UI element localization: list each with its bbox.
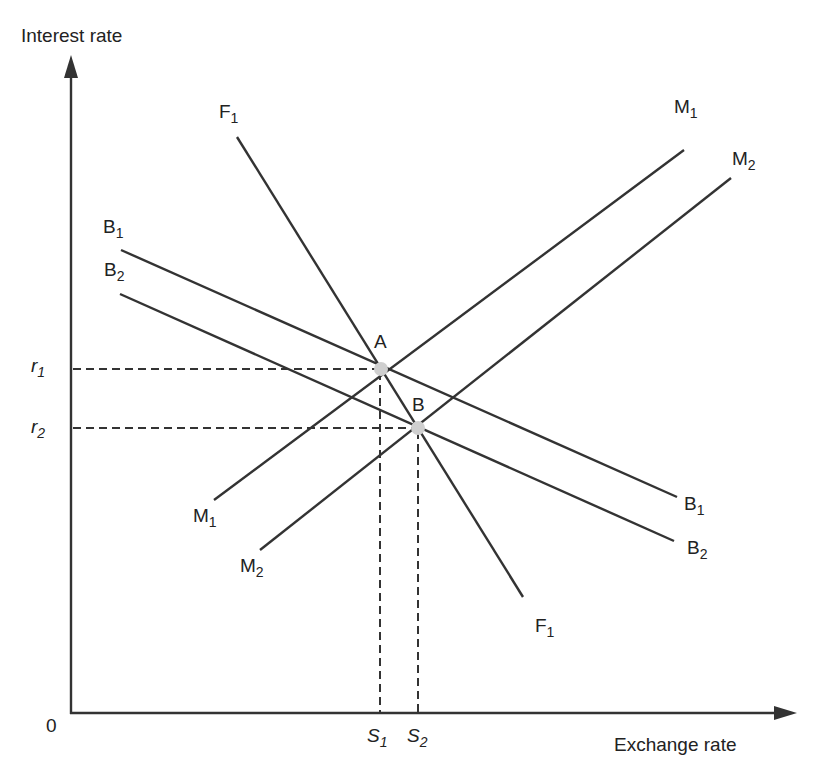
label-b1-right: B1 [684,493,705,518]
point-a-marker [374,362,388,376]
y-axis-label: Interest rate [21,25,122,46]
x-axis-arrowhead [774,706,797,720]
label-m2-bottom: M2 [240,555,264,580]
equilibrium-diagram: Interest rate Exchange rate 0 A B F1 F1 … [0,0,826,773]
x-tick-s2: S2 [407,725,428,750]
label-m2-top: M2 [732,148,756,173]
label-b1-left: B1 [103,216,124,241]
label-f1-top: F1 [219,101,239,126]
origin-label: 0 [46,715,57,736]
guide-lines [73,369,418,712]
label-b2-left: B2 [104,259,125,284]
curve-m2 [260,178,731,550]
x-axis-label: Exchange rate [614,734,737,755]
x-tick-s1: S1 [367,725,387,750]
label-m1-top: M1 [674,96,698,121]
point-b-label: B [412,394,425,415]
y-tick-r2: r2 [31,416,45,441]
y-axis-arrowhead [64,55,78,78]
curve-m1 [214,150,684,500]
point-b-marker [411,421,425,435]
label-f1-bottom: F1 [535,615,555,640]
y-tick-r1: r1 [31,355,45,380]
point-a-label: A [374,331,387,352]
label-b2-right: B2 [687,537,708,562]
curve-b2 [120,294,674,541]
label-m1-bottom: M1 [193,505,217,530]
